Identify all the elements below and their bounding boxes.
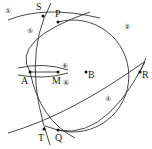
label-t: T — [38, 132, 44, 143]
label-p: P — [55, 8, 61, 19]
step-2-label: ② — [124, 23, 130, 31]
label-a: A — [21, 75, 29, 86]
step-6-label-bottom: ⑥ — [63, 79, 69, 87]
step-6-label-top: ⑥ — [62, 62, 68, 70]
point-s — [42, 15, 45, 18]
line-5 — [35, 3, 51, 145]
point-m — [57, 71, 60, 74]
point-t — [43, 128, 46, 131]
geometry-figure: S P A M B R Q T ① ② ⑤ ⑥ ⑥ ④ — [0, 0, 152, 149]
arc-6-top — [18, 65, 68, 70]
label-b: B — [88, 69, 95, 80]
label-r: R — [142, 69, 149, 80]
point-p — [57, 21, 60, 24]
point-a — [29, 71, 32, 74]
step-5-label: ⑤ — [27, 27, 33, 35]
arc-qr — [45, 62, 145, 131]
label-s: S — [36, 1, 42, 12]
label-m: M — [52, 75, 61, 86]
step-1-label: ① — [5, 7, 11, 15]
step-4-label: ④ — [105, 95, 111, 103]
label-q: Q — [55, 132, 63, 143]
construction-diagram: S P A M B R Q T ① ② ⑤ ⑥ ⑥ ④ — [0, 0, 152, 149]
